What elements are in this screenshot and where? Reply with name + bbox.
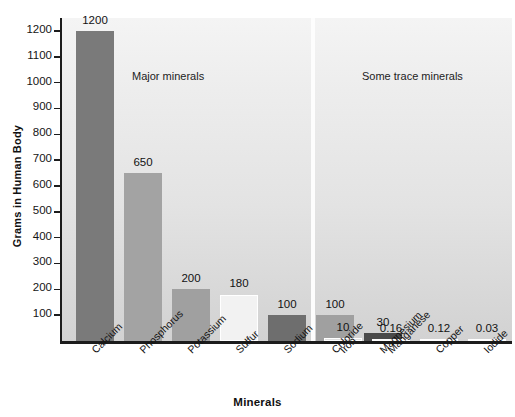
bar-calcium[interactable] (76, 31, 114, 341)
plot-area: Major minerals Some trace minerals (62, 18, 512, 341)
y-tick-label-1200: 1200 (14, 23, 52, 35)
y-tick-100 (54, 314, 62, 316)
y-tick-200 (54, 289, 62, 291)
y-tick-900 (54, 108, 62, 110)
y-tick-label-200: 200 (14, 281, 52, 293)
y-tick-label-900: 900 (14, 100, 52, 112)
y-tick-400 (54, 237, 62, 239)
y-tick-300 (54, 263, 62, 265)
mineral-bar-chart: Grams in Human Body Major minerals Some … (0, 0, 515, 417)
annotation-major-minerals: Major minerals (132, 70, 204, 82)
y-tick-1100 (54, 56, 62, 58)
y-tick-1200 (54, 30, 62, 32)
y-tick-600 (54, 185, 62, 187)
value-label-sulfur: 180 (209, 277, 269, 289)
y-tick-label-300: 300 (14, 255, 52, 267)
y-tick-1000 (54, 82, 62, 84)
y-axis-line (60, 18, 62, 343)
y-tick-700 (54, 159, 62, 161)
value-label-phosphorus: 650 (113, 156, 173, 168)
bar-phosphorus[interactable] (124, 173, 162, 341)
x-axis-title: Minerals (0, 396, 515, 408)
annotation-trace-minerals: Some trace minerals (362, 70, 463, 82)
y-tick-label-400: 400 (14, 230, 52, 242)
y-tick-label-600: 600 (14, 178, 52, 190)
y-tick-500 (54, 211, 62, 213)
y-tick-label-700: 700 (14, 152, 52, 164)
y-tick-label-1100: 1100 (14, 49, 52, 61)
value-label-chloride: 100 (305, 298, 365, 310)
y-tick-800 (54, 134, 62, 136)
y-tick-label-100: 100 (14, 307, 52, 319)
y-tick-label-800: 800 (14, 126, 52, 138)
y-tick-label-1000: 1000 (14, 75, 52, 87)
group-separator (311, 18, 315, 341)
value-label-calcium: 1200 (65, 14, 125, 26)
y-tick-label-500: 500 (14, 204, 52, 216)
